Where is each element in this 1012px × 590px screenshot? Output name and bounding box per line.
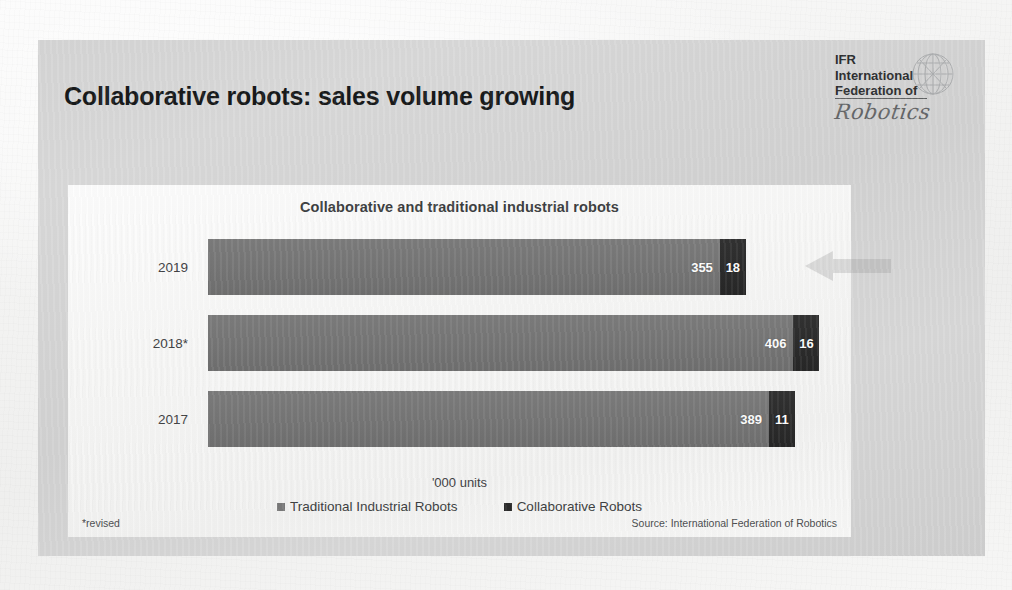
bar-value-traditional: 406 bbox=[765, 336, 787, 351]
category-label: 2018* bbox=[68, 336, 188, 351]
bar-value-collaborative: 16 bbox=[799, 336, 813, 351]
bar-row: 201738911 bbox=[68, 391, 851, 447]
legend-swatch-traditional bbox=[277, 503, 285, 511]
legend-label-collaborative: Collaborative Robots bbox=[517, 499, 642, 514]
bar-value-traditional: 355 bbox=[691, 260, 713, 275]
slide-title: Collaborative robots: sales volume growi… bbox=[64, 82, 575, 111]
ifr-logo-text: IFR International Federation of bbox=[835, 52, 917, 99]
bar-segment-traditional[interactable]: 355 bbox=[208, 239, 720, 295]
ifr-logo-line-2: International bbox=[835, 68, 917, 84]
source-credit: Source: International Federation of Robo… bbox=[632, 517, 837, 529]
ifr-logo-line-1: IFR bbox=[835, 52, 917, 68]
bar-segment-traditional[interactable]: 389 bbox=[208, 391, 769, 447]
slide: Collaborative robots: sales volume growi… bbox=[38, 40, 985, 556]
legend-item-traditional[interactable]: Traditional Industrial Robots bbox=[277, 499, 458, 514]
bar-segment-traditional[interactable]: 406 bbox=[208, 315, 793, 371]
bar-row: 2018*40616 bbox=[68, 315, 851, 371]
bar-segment-collaborative[interactable]: 11 bbox=[769, 391, 795, 447]
bar-track: 38911 bbox=[208, 391, 795, 447]
footnote-revised: *revised bbox=[82, 517, 120, 529]
bar-segment-collaborative[interactable]: 16 bbox=[793, 315, 819, 371]
ifr-logo-line-3: Federation of bbox=[835, 83, 917, 99]
chart-panel: Collaborative and traditional industrial… bbox=[68, 185, 851, 537]
bar-row: 201935518 bbox=[68, 239, 851, 295]
ifr-logo-rule bbox=[835, 98, 927, 99]
category-label: 2017 bbox=[68, 412, 188, 427]
legend-swatch-collaborative bbox=[504, 503, 512, 511]
chart-legend: Traditional Industrial Robots Collaborat… bbox=[68, 499, 851, 514]
chart-plot-area: 2019355182018*40616201738911 bbox=[68, 237, 851, 469]
axis-label-units: '000 units bbox=[68, 475, 851, 490]
bar-value-collaborative: 11 bbox=[775, 412, 789, 427]
bar-value-traditional: 389 bbox=[740, 412, 762, 427]
legend-item-collaborative[interactable]: Collaborative Robots bbox=[504, 499, 642, 514]
bar-value-collaborative: 18 bbox=[726, 260, 740, 275]
category-label: 2019 bbox=[68, 260, 188, 275]
bar-track: 35518 bbox=[208, 239, 746, 295]
ifr-logo: IFR International Federation of Robotics bbox=[835, 46, 965, 134]
ifr-logo-script-word: Robotics bbox=[833, 100, 932, 124]
chart-title: Collaborative and traditional industrial… bbox=[68, 199, 851, 215]
bar-segment-collaborative[interactable]: 18 bbox=[720, 239, 746, 295]
bar-track: 40616 bbox=[208, 315, 819, 371]
legend-label-traditional: Traditional Industrial Robots bbox=[290, 499, 458, 514]
